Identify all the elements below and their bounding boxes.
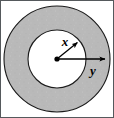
annulus-diagram: x y [0,0,114,118]
center-point [54,56,59,61]
outer-radius-label: y [88,63,96,78]
figure-container: x y [0,0,114,118]
inner-radius-label: x [61,34,69,49]
